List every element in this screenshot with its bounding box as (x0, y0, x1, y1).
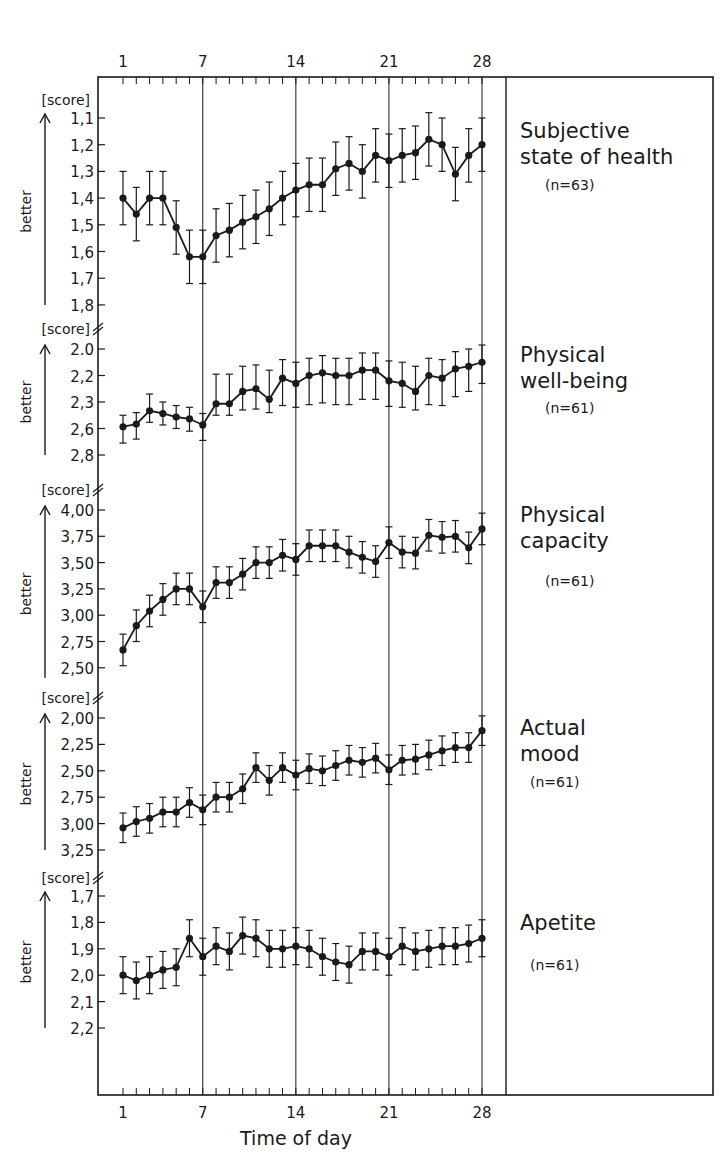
y-tick-label: 1,1 (70, 110, 94, 128)
data-point (186, 415, 193, 422)
data-point (319, 369, 326, 376)
unit-label: [score] (41, 92, 90, 108)
data-point (372, 152, 379, 159)
data-point (292, 380, 299, 387)
x-tick-label-bottom: 28 (472, 1104, 491, 1122)
data-point (146, 407, 153, 414)
error-bar (359, 353, 366, 399)
data-point (292, 943, 299, 950)
data-point (306, 945, 313, 952)
data-point (452, 744, 459, 751)
data-point (146, 607, 153, 614)
data-point (239, 571, 246, 578)
data-point (345, 757, 352, 764)
data-point (425, 751, 432, 758)
data-point (252, 764, 259, 771)
data-point (159, 596, 166, 603)
data-point (212, 943, 219, 950)
data-point (292, 556, 299, 563)
data-point (319, 953, 326, 960)
data-point (119, 824, 126, 831)
data-point (385, 157, 392, 164)
error-bar (332, 358, 339, 404)
y-tick-label: 1,4 (70, 190, 94, 208)
data-point (212, 579, 219, 586)
data-point (465, 363, 472, 370)
data-point (292, 186, 299, 193)
error-bar (439, 360, 446, 406)
series-line (123, 936, 482, 981)
data-point (146, 972, 153, 979)
x-tick-label-bottom: 1 (118, 1104, 128, 1122)
error-bar (226, 374, 233, 415)
data-point (425, 136, 432, 143)
panel-title-line: Physical (520, 503, 605, 527)
data-point (199, 603, 206, 610)
data-point (306, 765, 313, 772)
x-tick-label-top: 28 (472, 53, 491, 71)
data-point (399, 152, 406, 159)
data-point (478, 935, 485, 942)
unit-label: [score] (41, 321, 90, 337)
better-label: better (18, 572, 34, 615)
x-tick-label-top: 21 (379, 53, 398, 71)
data-point (359, 168, 366, 175)
x-tick-label-top: 1 (118, 53, 128, 71)
data-point (212, 232, 219, 239)
error-bar (306, 358, 313, 404)
error-bar (425, 358, 432, 404)
data-point (199, 953, 206, 960)
data-point (332, 542, 339, 549)
data-point (359, 554, 366, 561)
y-tick-label: 3,00 (61, 607, 94, 625)
y-tick-label: 2,25 (61, 736, 94, 754)
data-point (345, 961, 352, 968)
y-tick-label: 1,2 (70, 137, 94, 155)
y-tick-label: 1,5 (70, 217, 94, 235)
y-tick-label: 2,3 (70, 394, 94, 412)
x-axis-label: Time of day (239, 1127, 352, 1149)
unit-label: [score] (41, 870, 90, 886)
y-tick-label: 2,75 (61, 789, 94, 807)
data-point (372, 367, 379, 374)
data-point (399, 548, 406, 555)
data-point (159, 966, 166, 973)
error-bar (346, 358, 353, 404)
y-tick-label: 1,8 (70, 914, 94, 932)
data-point (252, 213, 259, 220)
data-point (173, 224, 180, 231)
data-point (452, 533, 459, 540)
data-point (412, 388, 419, 395)
data-point (345, 372, 352, 379)
y-tick-label: 2,75 (61, 634, 94, 652)
y-tick-label: 1,7 (70, 270, 94, 288)
y-tick-label: 2,8 (70, 447, 94, 465)
data-point (412, 149, 419, 156)
data-point (226, 948, 233, 955)
data-point (399, 380, 406, 387)
data-point (186, 585, 193, 592)
error-bar (465, 349, 472, 391)
panel-title-line: capacity (520, 529, 609, 553)
series-line (123, 139, 482, 256)
x-tick-label-bottom: 7 (198, 1104, 208, 1122)
panels: 1,11,21,31,41,51,61,71,8[score]betterSub… (18, 92, 673, 1038)
data-point (279, 764, 286, 771)
y-tick-label: 2,50 (61, 763, 94, 781)
data-point (345, 160, 352, 167)
data-point (478, 141, 485, 148)
data-point (212, 794, 219, 801)
data-point (359, 367, 366, 374)
data-point (279, 945, 286, 952)
data-point (266, 777, 273, 784)
data-point (412, 948, 419, 955)
panel-actual-mood: 2,002,252,502,753,003,25[score]betterAct… (18, 690, 586, 860)
data-point (332, 958, 339, 965)
data-point (372, 755, 379, 762)
data-point (359, 948, 366, 955)
y-tick-label: 1,3 (70, 163, 94, 181)
data-point (399, 943, 406, 950)
data-point (279, 375, 286, 382)
data-point (133, 818, 140, 825)
better-label: better (18, 190, 34, 233)
